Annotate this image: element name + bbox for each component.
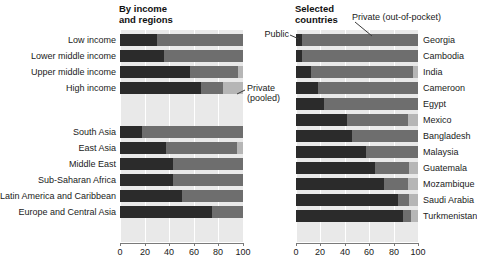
- bar-segment-public: [120, 174, 173, 186]
- row-label: Low income: [68, 35, 116, 45]
- bar-segment-private-out-of-pocket: [413, 66, 418, 78]
- panel-title-left: By income and regions: [119, 3, 173, 25]
- bar-segment-private-pooled: [311, 66, 413, 78]
- row-label: Georgia: [423, 35, 455, 45]
- row-label: Latin America and Caribbean: [0, 191, 116, 201]
- plot-area-selected-countries: [296, 30, 418, 242]
- panel-title-right: Selected countries: [295, 3, 338, 25]
- x-tick: [296, 243, 297, 246]
- bar-segment-public: [120, 66, 190, 78]
- bar-segment-private-pooled: [166, 142, 237, 154]
- callout-public-label: Public: [249, 29, 289, 39]
- bar-segment-private-out-of-pocket: [237, 142, 243, 154]
- x-tick: [320, 243, 321, 246]
- bar-row: [120, 34, 243, 46]
- bar-segment-private-pooled: [173, 174, 243, 186]
- row-label: Malaysia: [423, 147, 459, 157]
- x-tick: [345, 243, 346, 246]
- x-tick-label: 80: [382, 247, 406, 257]
- bar-segment-public: [296, 178, 384, 190]
- bar-segment-public: [296, 194, 398, 206]
- x-tick-label: 60: [182, 247, 206, 257]
- gridline-100: [243, 30, 244, 242]
- bar-segment-private-pooled: [375, 162, 409, 174]
- bar-segment-private-out-of-pocket: [223, 82, 243, 94]
- bar-segment-private-pooled: [157, 34, 243, 46]
- bar-segment-private-pooled: [212, 206, 243, 218]
- bar-row: [296, 114, 418, 126]
- bar-segment-private-out-of-pocket: [409, 162, 418, 174]
- bar-segment-private-pooled: [318, 82, 418, 94]
- row-label: India: [423, 67, 443, 77]
- x-tick: [418, 243, 419, 246]
- bar-segment-public: [296, 114, 347, 126]
- bar-segment-public: [120, 82, 201, 94]
- row-label: South Asia: [73, 127, 116, 137]
- x-tick: [169, 243, 170, 246]
- row-label: Mozambique: [423, 179, 475, 189]
- x-tick: [218, 243, 219, 246]
- bar-segment-public: [120, 34, 157, 46]
- bar-segment-private-out-of-pocket: [238, 66, 243, 78]
- bar-row: [120, 190, 243, 202]
- bar-row: [120, 66, 243, 78]
- row-label: Cameroon: [423, 83, 465, 93]
- row-label: Turkmenistan: [423, 211, 477, 221]
- bar-segment-public: [296, 130, 352, 142]
- bar-segment-public: [296, 98, 324, 110]
- x-tick-label: 100: [406, 247, 430, 257]
- plot-area-by-income-and-regions: [120, 30, 243, 242]
- bar-segment-public: [296, 66, 311, 78]
- bar-segment-private-pooled: [403, 210, 411, 222]
- row-label: Egypt: [423, 99, 446, 109]
- x-tick: [120, 243, 121, 246]
- callout-private-pooled-label: Private (pooled): [247, 83, 291, 103]
- bar-segment-private-pooled: [164, 50, 243, 62]
- callout-private-out-of-pocket-label: Private (out-of-pocket): [352, 12, 441, 22]
- bar-segment-public: [296, 82, 318, 94]
- bar-segment-public: [120, 206, 212, 218]
- row-label: Lower middle income: [31, 51, 116, 61]
- row-label: Cambodia: [423, 51, 464, 61]
- row-label: Guatemala: [423, 163, 467, 173]
- bar-segment-private-pooled: [190, 66, 238, 78]
- row-label: Europe and Central Asia: [18, 207, 116, 217]
- row-label: Middle East: [69, 159, 116, 169]
- x-tick: [194, 243, 195, 246]
- row-label: High income: [66, 83, 116, 93]
- x-tick-label: 80: [206, 247, 230, 257]
- gridline-100: [418, 30, 419, 242]
- bar-row: [296, 82, 418, 94]
- row-label: Saudi Arabia: [423, 195, 474, 205]
- bar-segment-public: [296, 146, 366, 158]
- row-label: Bangladesh: [423, 131, 471, 141]
- bar-row: [296, 162, 418, 174]
- x-tick: [394, 243, 395, 246]
- bar-segment-private-pooled: [201, 82, 223, 94]
- bar-segment-private-pooled: [173, 158, 243, 170]
- bar-row: [120, 142, 243, 154]
- x-tick-label: 20: [308, 247, 332, 257]
- bar-row: [120, 158, 243, 170]
- bar-segment-private-pooled: [398, 194, 409, 206]
- x-tick-label: 40: [157, 247, 181, 257]
- bar-row: [120, 206, 243, 218]
- x-tick-label: 0: [108, 247, 132, 257]
- bar-segment-private-out-of-pocket: [409, 194, 418, 206]
- bar-segment-private-out-of-pocket: [411, 210, 418, 222]
- bar-row: [296, 50, 418, 62]
- x-axis-left: [120, 243, 243, 244]
- bar-segment-private-out-of-pocket: [408, 114, 418, 126]
- bar-segment-public: [296, 162, 375, 174]
- x-tick-label: 40: [333, 247, 357, 257]
- bar-segment-public: [120, 190, 182, 202]
- row-label: Mexico: [423, 115, 452, 125]
- bar-row: [296, 178, 418, 190]
- x-tick: [145, 243, 146, 246]
- x-tick: [243, 243, 244, 246]
- bar-segment-public: [120, 126, 142, 138]
- bar-row: [120, 82, 243, 94]
- bar-segment-private-pooled: [142, 126, 243, 138]
- bar-segment-public: [120, 158, 173, 170]
- bar-row: [296, 66, 418, 78]
